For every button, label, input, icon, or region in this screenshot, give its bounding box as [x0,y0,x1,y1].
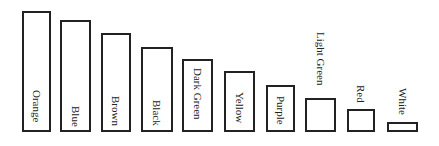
bar-label: White [397,88,408,115]
bar-label: Black [151,100,162,126]
bar-light-green [305,98,336,132]
bar-label: Purple [275,96,286,125]
bar-label: Blue [70,106,81,127]
bar-red [347,109,375,132]
bar-label: Red [355,85,366,103]
bar-label: Dark Green [192,68,203,120]
bar-label: Light Green [315,32,326,85]
bar-white [387,122,418,132]
bar-label: Orange [31,90,42,122]
bar-label: Brown [110,96,121,126]
bar-chart: OrangeBlueBrownBlackDark GreenYellowPurp… [0,0,439,146]
bar-label: Yellow [234,92,245,123]
